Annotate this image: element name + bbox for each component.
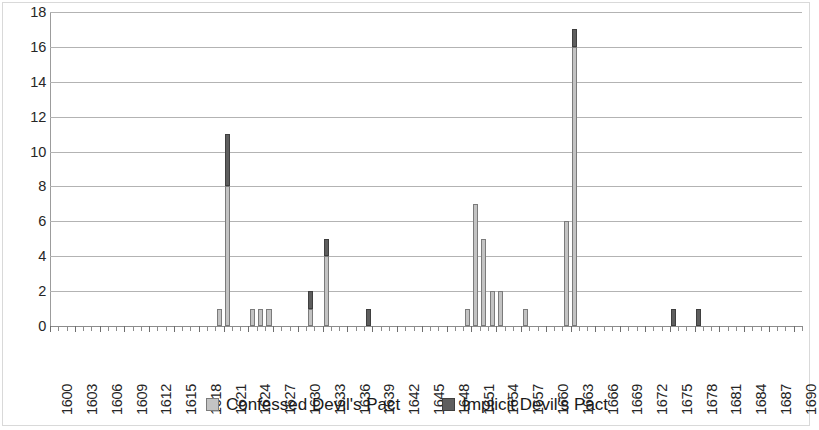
bar-segment [671,309,676,326]
x-tickmark [438,326,439,331]
x-tickmark [752,326,753,331]
x-tickmark [736,326,737,331]
legend-swatch-icon [206,398,219,411]
x-tickmark [777,326,778,331]
plot-area [50,12,802,326]
x-tickmark [505,326,506,331]
x-tickmark [761,326,762,331]
bar-segment [225,186,230,326]
x-tickmark [480,326,481,331]
x-tickmark [587,326,588,331]
x-tickmark [166,326,167,331]
x-tickmark [488,326,489,331]
bar-segment [490,291,495,326]
x-tickmark [678,326,679,331]
bar-segment [258,309,263,326]
bar-segment [572,47,577,326]
y-tick-label: 4 [38,249,46,264]
y-tick-label: 12 [30,109,46,124]
x-tickmark [331,326,332,331]
bar-segment [308,309,313,326]
y-tick-label: 8 [38,179,46,194]
x-tickmark [83,326,84,331]
x-tickmark [728,326,729,331]
bar-segment [465,309,470,326]
x-tickmark [356,326,357,331]
x-axis-tick-labels: 1600160316061609161216151618162116241627… [50,332,802,388]
x-tickmark [232,326,233,331]
x-tickmark [182,326,183,331]
legend-entry[interactable]: Implicit Devil's Pact [442,396,608,413]
x-tickmark [389,326,390,331]
bar-segment [481,239,486,326]
x-tickmark [628,326,629,331]
x-tickmark [579,326,580,331]
legend-entry[interactable]: Confessed Devil's Pact [206,396,400,413]
x-tickmark [364,326,365,331]
x-tickmark [637,326,638,331]
x-tickmark [58,326,59,331]
x-tickmark [91,326,92,331]
x-tickmark [538,326,539,331]
x-tickmark [686,326,687,331]
x-tickmark [554,326,555,331]
x-tickmark [612,326,613,331]
x-tickmark [133,326,134,331]
x-tickmark [116,326,117,331]
y-tick-label: 16 [30,40,46,55]
x-tickmark [190,326,191,331]
x-tickmark [414,326,415,331]
x-tickmark [529,326,530,331]
x-tickmark [802,326,803,331]
x-tickmark [257,326,258,331]
y-tick-label: 2 [38,284,46,299]
bar-segment [225,134,230,186]
x-tickmark [108,326,109,331]
bar-segment [217,309,222,326]
x-tickmark [67,326,68,331]
bar-segment [308,291,313,308]
x-tickmark [207,326,208,331]
x-tickmark [562,326,563,331]
y-tick-label: 18 [30,5,46,20]
x-tickmark [215,326,216,331]
x-tickmark [381,326,382,331]
y-tick-label: 0 [38,319,46,334]
x-tickmark [240,326,241,331]
x-tickmark [463,326,464,331]
x-tickmark [141,326,142,331]
y-axis-tick-labels: 024681012141618 [10,6,46,326]
y-tick-label: 6 [38,214,46,229]
chart-legend: Confessed Devil's PactImplicit Devil's P… [0,396,814,413]
bar-segment [523,309,528,326]
legend-swatch-icon [442,398,455,411]
x-tickmark [653,326,654,331]
x-tickmark [265,326,266,331]
bar-segment [473,204,478,326]
bar-segment [366,309,371,326]
bar-segment [324,239,329,256]
x-tickmark [157,326,158,331]
x-tickmark [604,326,605,331]
bar-segment [250,309,255,326]
x-tickmark [430,326,431,331]
x-tickmark [662,326,663,331]
bar-segment [572,29,577,46]
x-tickmark [339,326,340,331]
x-tickmark [306,326,307,331]
legend-label: Confessed Devil's Pact [226,396,400,413]
x-tickmark [703,326,704,331]
bar-segment [696,309,701,326]
x-tickmark [513,326,514,331]
bars-layer [50,12,802,326]
legend-label: Implicit Devil's Pact [462,396,608,413]
bar-segment [266,309,271,326]
x-tickmark [785,326,786,331]
x-tickmark [281,326,282,331]
y-tick-label: 10 [30,144,46,159]
x-tickmark [290,326,291,331]
bar-segment [564,221,569,326]
x-tickmark [711,326,712,331]
